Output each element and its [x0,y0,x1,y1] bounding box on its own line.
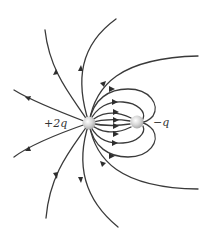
negative-charge-label: −q [153,116,169,129]
arrow-icon [112,140,118,146]
arrow-icon [113,117,119,123]
escaping-field-lines [14,19,198,227]
connecting-field-lines [89,89,155,157]
field-line-diagram: +2q −q [0,0,211,242]
direction-arrows [25,65,119,183]
arrow-icon [112,99,118,105]
negative-charge-sphere [131,116,144,129]
positive-charge-sphere [83,117,96,130]
arrow-icon [78,177,83,183]
arrow-icon [78,65,83,71]
positive-charge-label: +2q [44,117,67,130]
arrow-icon [100,161,106,167]
field-line-top [82,19,116,123]
arrow-icon [113,123,119,129]
